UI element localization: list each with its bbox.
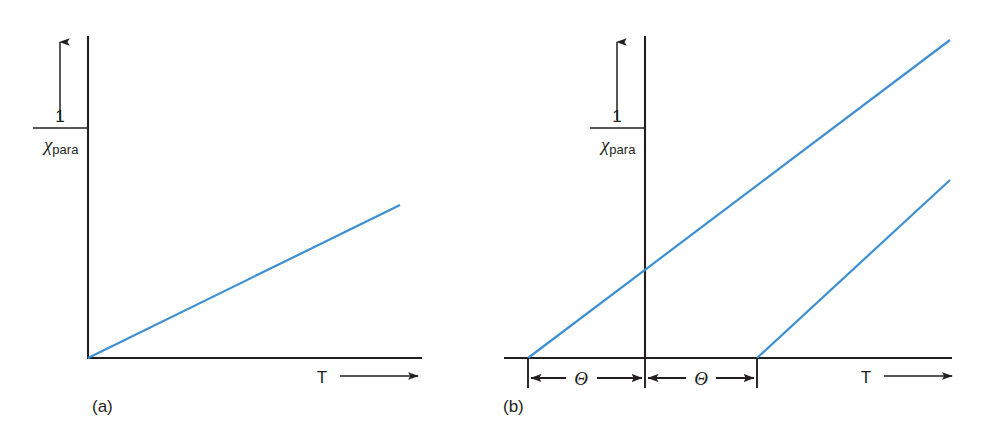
panel-b-x-axis-symbol: T: [861, 368, 871, 387]
panel-a-y-axis-numerator: 1: [55, 107, 64, 126]
panel-a-curie-line: [88, 205, 400, 358]
panel-b-ferromagnetic-line: [528, 40, 950, 358]
panel-b: [504, 36, 952, 388]
panel-b-theta-left-label: Θ: [574, 368, 588, 389]
panel-a-x-axis-symbol: T: [317, 368, 327, 387]
panel-a: [33, 36, 422, 376]
panel-b-antiferromagnetic-line: [757, 180, 950, 358]
panel-a-y-axis-denominator: χpara: [42, 134, 79, 157]
figure-root: 1 χpara T (a) 1 χpara T Θ Θ (b): [0, 0, 988, 435]
panel-b-caption: (b): [503, 397, 524, 416]
panel-a-caption: (a): [92, 397, 113, 416]
panel-b-y-axis-denominator: χpara: [599, 134, 636, 157]
panel-a-chi-subscript: para: [52, 142, 79, 157]
panel-b-theta-right-label: Θ: [694, 368, 708, 389]
panel-b-chi-subscript: para: [609, 142, 636, 157]
panel-a-chi-symbol: χ: [42, 134, 53, 155]
panel-b-chi-symbol: χ: [599, 134, 610, 155]
figure-canvas: 1 χpara T (a) 1 χpara T Θ Θ (b): [0, 0, 988, 435]
panel-b-y-axis-numerator: 1: [612, 107, 621, 126]
